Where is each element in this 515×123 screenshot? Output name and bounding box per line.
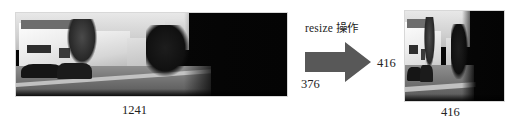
dark-region-right bbox=[462, 11, 504, 101]
foreground-shadow bbox=[405, 94, 504, 101]
resize-operation-label: resize 操作 bbox=[305, 23, 359, 35]
parked-car-2 bbox=[420, 65, 433, 82]
street-scene-source bbox=[16, 13, 287, 96]
source-image bbox=[15, 12, 288, 97]
result-image bbox=[404, 10, 505, 102]
street-scene-result bbox=[405, 11, 504, 101]
tree-near bbox=[67, 19, 97, 65]
tree-right bbox=[146, 25, 189, 76]
house-left-window-1 bbox=[409, 45, 418, 54]
dark-region-right bbox=[184, 13, 287, 96]
result-width-label: 416 bbox=[441, 106, 460, 119]
foreground-shadow bbox=[16, 89, 287, 96]
parked-car-2 bbox=[57, 63, 92, 79]
tree-near bbox=[424, 17, 435, 67]
house-left-window-1 bbox=[27, 45, 51, 53]
resize-operation-figure: 1241 376 resize 操作 416 bbox=[0, 0, 515, 123]
result-height-label: 416 bbox=[377, 57, 396, 70]
source-width-label: 1241 bbox=[122, 104, 147, 117]
arrow-right-icon bbox=[305, 42, 371, 82]
